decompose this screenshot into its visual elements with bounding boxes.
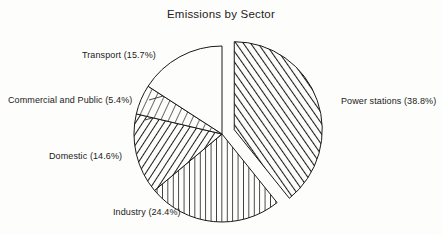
pie-chart-canvas	[0, 0, 442, 235]
slice-label-domestic: Domestic (14.6%)	[49, 151, 122, 161]
slice-label-power-stations: Power stations (38.8%)	[341, 96, 436, 106]
slice-label-commercial-and-public: Commercial and Public (5.4%)	[8, 95, 132, 105]
pie-slices	[134, 42, 322, 222]
slice-label-industry: Industry (24.4%)	[113, 207, 181, 217]
pie-chart-figure: Emissions by Sector Power stations (38.8…	[0, 0, 442, 235]
slice-label-transport: Transport (15.7%)	[82, 50, 156, 60]
